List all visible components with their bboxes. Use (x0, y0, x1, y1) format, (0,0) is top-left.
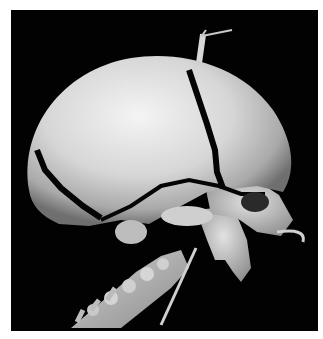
cervical-spine (71, 250, 189, 328)
oral-tube (277, 231, 303, 242)
ct-image-panel (11, 10, 318, 331)
temporal-region (115, 220, 147, 244)
skull-rendering (11, 10, 318, 331)
zygomatic-arch (161, 206, 213, 226)
orbit (241, 192, 269, 212)
